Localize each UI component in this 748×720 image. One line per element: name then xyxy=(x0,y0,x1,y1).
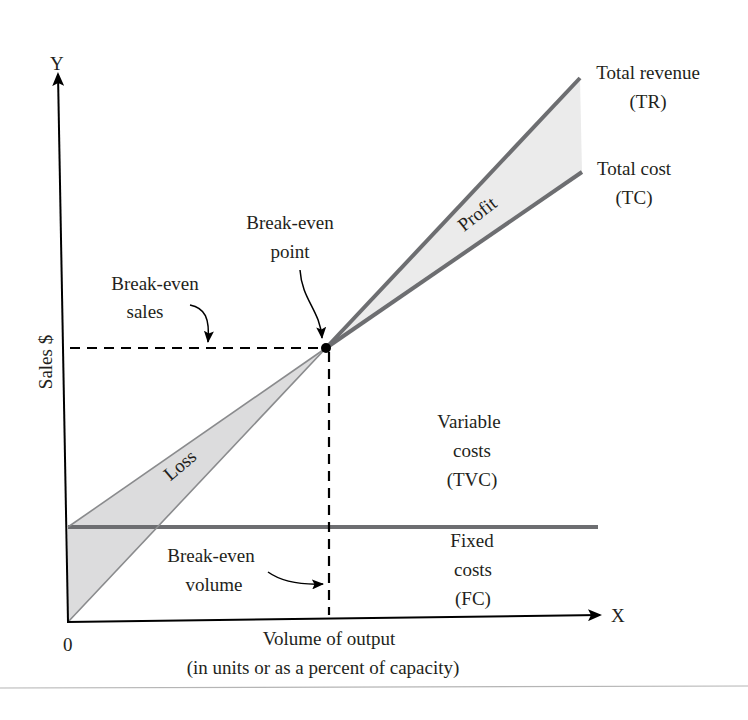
origin-label: 0 xyxy=(63,634,73,655)
variable-costs-label-3: (TVC) xyxy=(447,469,498,491)
total-revenue-label: Total revenue xyxy=(596,62,700,83)
x-axis-sublabel: (in units or as a percent of capacity) xyxy=(187,657,460,679)
break-even-volume-label-1: Break-even xyxy=(167,545,255,566)
variable-costs-label-2: costs xyxy=(453,440,491,461)
x-axis-letter: X xyxy=(611,605,625,626)
y-axis xyxy=(58,74,68,622)
total-revenue-line xyxy=(326,78,580,348)
fixed-costs-label-1: Fixed xyxy=(450,530,494,551)
bottom-divider xyxy=(0,686,748,688)
total-cost-label: Total cost xyxy=(597,158,672,179)
x-axis xyxy=(67,615,600,622)
break-even-sales-arrow-icon xyxy=(190,305,208,342)
break-even-point-label-1: Break-even xyxy=(246,212,334,233)
break-even-volume-label-2: volume xyxy=(186,574,243,595)
break-even-point-label-2: point xyxy=(270,241,310,262)
total-cost-abbr: (TC) xyxy=(616,187,653,209)
total-cost-line xyxy=(326,172,582,348)
fixed-costs-label-2: costs xyxy=(454,559,492,580)
break-even-sales-label-2: sales xyxy=(127,301,164,322)
break-even-volume-arrow-icon xyxy=(268,572,323,584)
break-even-point-dot xyxy=(321,343,331,353)
x-axis-label: Volume of output xyxy=(263,628,396,649)
break-even-chart: Y X 0 Sales $ Volume of output (in units… xyxy=(0,0,748,720)
variable-costs-label-1: Variable xyxy=(437,411,500,432)
fixed-costs-label-3: (FC) xyxy=(455,588,491,610)
y-axis-label: Sales $ xyxy=(35,335,56,389)
y-axis-letter: Y xyxy=(50,53,64,74)
break-even-sales-label-1: Break-even xyxy=(111,273,199,294)
total-cost-line-lower xyxy=(68,348,326,527)
break-even-point-arrow-icon xyxy=(300,270,322,338)
total-revenue-abbr: (TR) xyxy=(630,91,667,113)
